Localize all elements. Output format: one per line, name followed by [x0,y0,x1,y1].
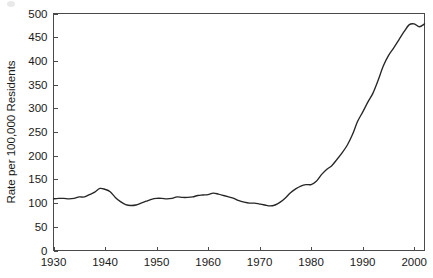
chart-figure: 050100150200250300350400450500 193019401… [0,0,433,278]
x-tick-label: 1990 [350,256,376,268]
x-tick-label: 1970 [247,256,273,268]
x-axis: 19301940195019601970198019902000 [41,247,427,268]
x-tick-label: 1960 [195,256,221,268]
x-tick-label: 2000 [401,256,427,268]
y-tick-label: 150 [28,173,47,185]
y-axis-title: Rate per 100,000 Residents [5,60,17,203]
scan-artifact [7,1,15,7]
data-line-rate [54,24,425,206]
y-tick-label: 350 [28,79,47,91]
line-chart: 050100150200250300350400450500 193019401… [0,0,433,278]
y-tick-label: 500 [28,8,47,20]
y-tick-label: 300 [28,102,47,114]
x-tick-label: 1980 [298,256,324,268]
y-tick-label: 400 [28,55,47,67]
y-tick-label: 450 [28,31,47,43]
y-tick-label: 250 [28,126,47,138]
x-tick-label: 1950 [144,256,170,268]
y-tick-label: 200 [28,150,47,162]
x-tick-label: 1930 [41,256,67,268]
y-tick-label: 50 [35,221,48,233]
series-group [54,24,425,206]
plot-frame [54,14,425,251]
x-tick-label: 1940 [92,256,118,268]
y-tick-label: 100 [28,197,47,209]
